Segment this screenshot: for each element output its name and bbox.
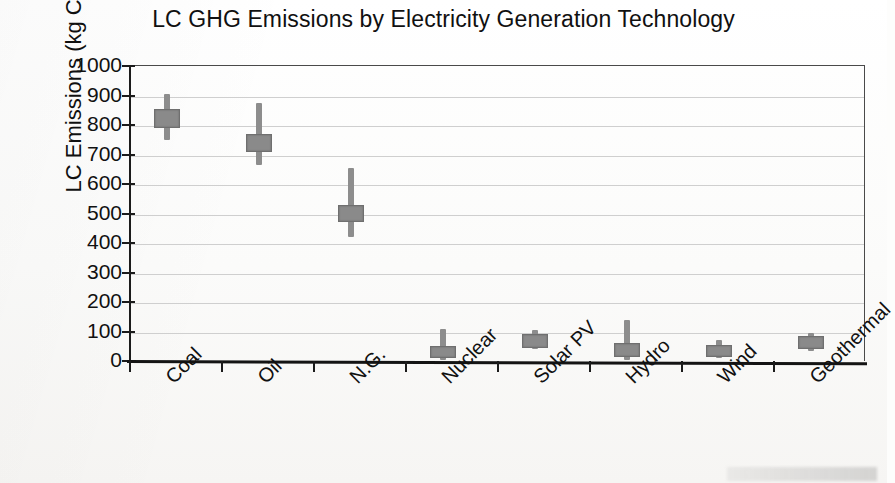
y-axis-tick bbox=[122, 65, 135, 67]
y-axis-tick-label: 100 bbox=[52, 319, 122, 343]
x-axis-tick bbox=[313, 361, 315, 372]
marker-box bbox=[706, 345, 732, 357]
y-axis-tick-label: 0 bbox=[52, 348, 122, 372]
marker-box bbox=[430, 346, 456, 358]
y-axis-tick bbox=[122, 183, 135, 185]
x-axis-tick bbox=[129, 361, 131, 372]
y-axis-tick bbox=[122, 242, 135, 244]
y-axis-tick-label: 300 bbox=[52, 260, 122, 284]
y-axis-tick bbox=[122, 272, 135, 274]
scan-artifact bbox=[727, 467, 877, 481]
y-axis-tick-label: 400 bbox=[52, 230, 122, 254]
y-axis-tick bbox=[122, 331, 135, 333]
marker-box bbox=[154, 109, 180, 128]
marker-box bbox=[614, 343, 640, 358]
y-axis-tick bbox=[122, 301, 135, 303]
data-marker bbox=[607, 0, 647, 361]
x-axis-tick bbox=[405, 361, 407, 372]
y-axis-tick-label: 900 bbox=[52, 83, 122, 107]
y-axis-tick-label: 1000 bbox=[52, 53, 122, 77]
marker-box bbox=[798, 336, 824, 349]
data-marker bbox=[147, 0, 187, 361]
data-marker bbox=[423, 0, 463, 361]
x-axis-tick bbox=[497, 361, 499, 372]
y-axis-tick-label: 800 bbox=[52, 112, 122, 136]
marker-box bbox=[522, 334, 548, 347]
data-marker bbox=[791, 0, 831, 361]
data-marker bbox=[239, 0, 279, 361]
x-axis-tick bbox=[681, 361, 683, 372]
marker-box bbox=[246, 134, 272, 152]
y-axis-tick bbox=[122, 124, 135, 126]
y-axis-tick bbox=[122, 213, 135, 215]
y-axis-tick-label: 500 bbox=[52, 201, 122, 225]
marker-whisker bbox=[348, 168, 354, 237]
y-axis-tick-label: 700 bbox=[52, 142, 122, 166]
x-axis-tick bbox=[773, 361, 775, 372]
y-axis-tick bbox=[122, 95, 135, 97]
x-axis-tick bbox=[589, 361, 591, 372]
y-axis-tick-label: 600 bbox=[52, 171, 122, 195]
x-axis-tick bbox=[221, 361, 223, 372]
data-marker bbox=[699, 0, 739, 361]
data-marker bbox=[331, 0, 371, 361]
data-marker bbox=[515, 0, 555, 361]
y-axis-tick-label: 200 bbox=[52, 289, 122, 313]
y-axis-tick bbox=[122, 154, 135, 156]
marker-box bbox=[338, 205, 364, 223]
